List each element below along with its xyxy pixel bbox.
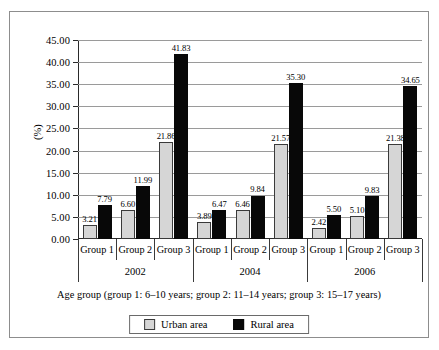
bar-rural [289,83,303,239]
category-label: Group 3 [269,239,307,260]
y-tick-label: 40.00 [46,57,70,68]
year-divider [422,239,423,282]
bar-value-label: 6.46 [235,201,250,210]
legend-label-urban: Urban area [161,319,207,330]
bar-urban [350,216,364,239]
gridline [78,62,422,63]
year-label: 2002 [78,260,193,282]
year-label: 2004 [193,260,308,282]
category-divider [116,239,117,260]
bar-value-label: 41.83 [172,44,191,53]
y-tick [73,84,78,85]
x-axis-caption: Age group (group 1: 6–10 years; group 2:… [10,289,428,300]
bar-rural [403,86,417,239]
year-axis: 200220042006 [78,260,422,282]
legend-label-rural: Rural area [250,319,293,330]
category-label: Group 2 [116,239,154,260]
bar-value-label: 35.30 [286,73,305,82]
y-tick-label: 0.00 [51,234,70,245]
y-tick [73,151,78,152]
category-label: Group 2 [231,239,269,260]
category-label: Group 2 [346,239,384,260]
bar-value-label: 9.84 [250,186,265,195]
year-divider [78,239,79,282]
gridline [78,151,422,152]
bar-rural [251,196,265,240]
gridline [78,173,422,174]
category-divider [269,239,270,260]
category-label: Group 1 [307,239,345,260]
bar-value-label: 3.89 [197,212,212,221]
bar-value-label: 6.60 [121,200,136,209]
bar-urban [274,144,288,239]
year-divider [307,239,308,282]
bar-rural [327,215,341,239]
bar-urban [312,228,326,239]
bar-rural [136,186,150,239]
bar-value-label: 5.50 [327,205,342,214]
category-divider [384,239,385,260]
y-tick [73,173,78,174]
y-tick [73,40,78,41]
y-tick-label: 35.00 [46,79,70,90]
bar-urban [388,144,402,239]
bar-value-label: 9.83 [365,186,380,195]
bar-urban [121,210,135,239]
y-axis-title: (%) [32,124,43,140]
y-tick [73,217,78,218]
category-label: Group 3 [154,239,192,260]
chart-frame: (%) 0.005.0010.0015.0020.0025.0030.0035.… [9,11,429,338]
bar-rural [174,54,188,239]
y-tick-label: 15.00 [46,167,70,178]
y-tick [73,106,78,107]
bar-urban [83,225,97,239]
gridline [78,128,422,129]
bar-urban [159,142,173,239]
y-tick-label: 5.00 [51,211,70,222]
legend-item-rural: Rural area [233,319,293,330]
bar-urban [197,222,211,239]
y-tick-label: 30.00 [46,101,70,112]
bar-value-label: 5.10 [350,207,365,216]
y-tick-label: 45.00 [46,35,70,46]
chart-legend: Urban area Rural area [129,315,309,334]
category-divider [346,239,347,260]
y-tick-label: 10.00 [46,189,70,200]
bar-value-label: 21.38 [386,135,405,144]
bar-rural [212,210,226,239]
category-divider [154,239,155,260]
legend-item-urban: Urban area [144,319,207,330]
y-tick [73,195,78,196]
bar-value-label: 2.42 [312,219,327,228]
bar-value-label: 7.79 [97,195,112,204]
legend-swatch-urban-icon [144,319,155,330]
year-divider [193,239,194,282]
plot-area: 0.005.0010.0015.0020.0025.0030.0035.0040… [78,40,422,239]
category-label: Group 1 [193,239,231,260]
bar-value-label: 11.99 [134,176,153,185]
y-tick-label: 25.00 [46,123,70,134]
y-tick [73,62,78,63]
y-tick [73,128,78,129]
gridline [78,84,422,85]
category-axis: Group 1Group 2Group 3Group 1Group 2Group… [78,239,422,260]
bar-value-label: 34.65 [401,76,420,85]
bar-rural [98,205,112,239]
year-label: 2006 [307,260,422,282]
bar-value-label: 21.57 [271,134,290,143]
legend-swatch-rural-icon [233,319,244,330]
bar-rural [365,196,379,239]
gridline [78,106,422,107]
bar-urban [236,210,250,239]
gridline [78,40,422,41]
category-label: Group 3 [384,239,422,260]
bar-value-label: 21.86 [157,133,176,142]
category-label: Group 1 [78,239,116,260]
bar-value-label: 6.47 [212,201,227,210]
bar-value-label: 3.21 [82,215,97,224]
y-tick-label: 20.00 [46,145,70,156]
category-divider [231,239,232,260]
